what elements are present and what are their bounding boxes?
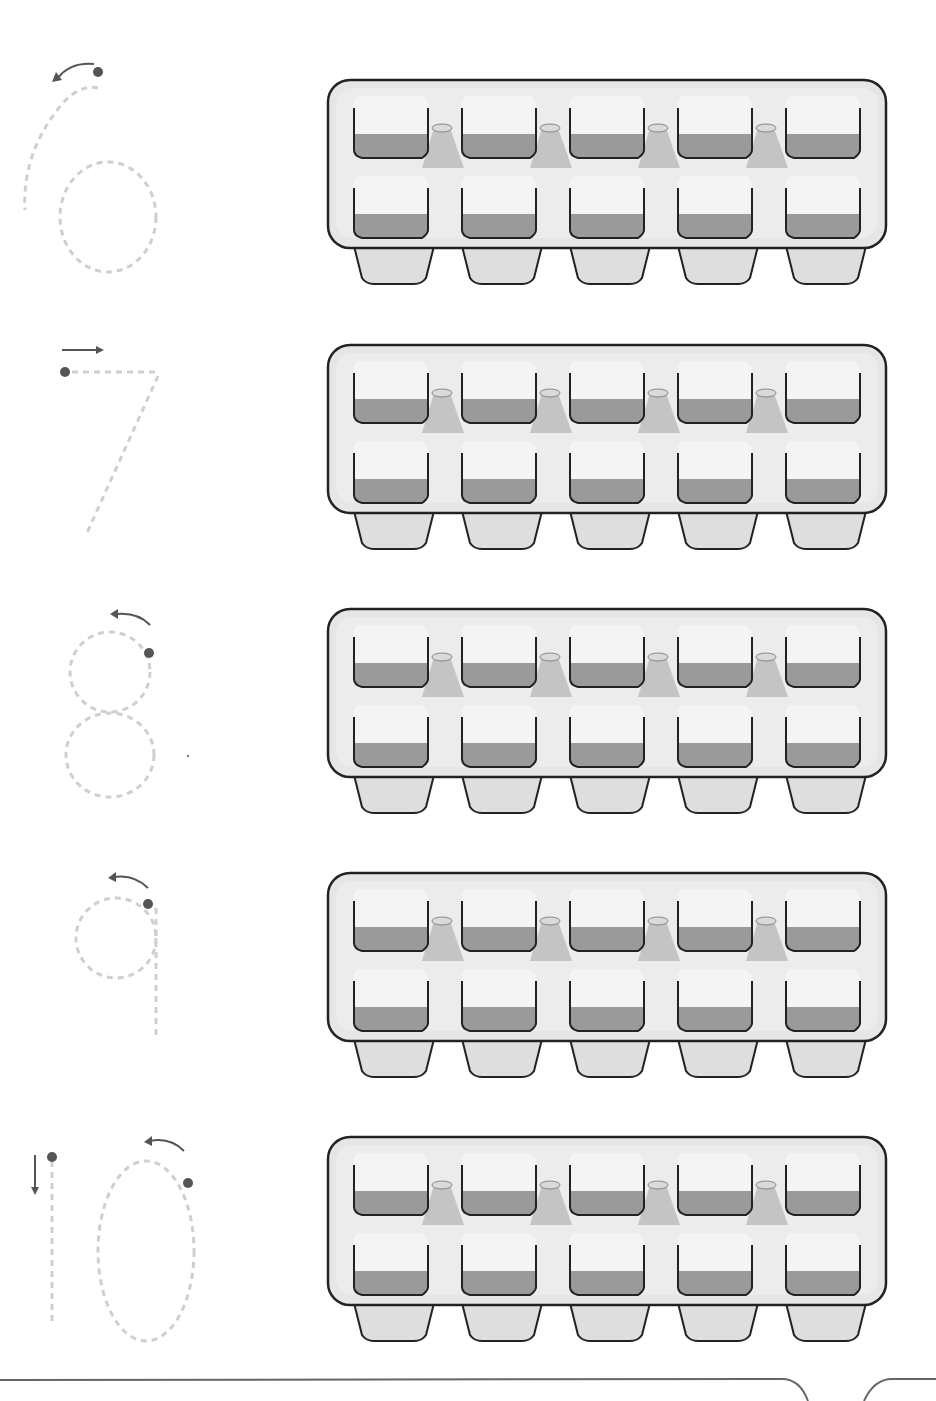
direction-arrow-icon <box>114 876 148 888</box>
direction-arrow-icon <box>116 614 150 625</box>
ice-cube-tray-9 <box>326 871 888 1087</box>
start-dot-icon <box>47 1152 57 1162</box>
start-dot-icon <box>93 67 103 77</box>
start-dot-icon <box>183 1178 193 1188</box>
start-dot-icon <box>143 899 153 909</box>
ice-cube-tray-7 <box>326 343 888 559</box>
direction-arrow-icon <box>58 64 94 78</box>
ice-cube-tray-6 <box>326 78 888 294</box>
ice-cube-tray-8 <box>326 607 888 823</box>
page-footer-border <box>0 1365 936 1401</box>
trace-numeral-6 <box>0 60 230 300</box>
ice-cube-tray-10 <box>326 1135 888 1351</box>
trace-numeral-10 <box>0 1125 230 1365</box>
trace-numeral-7 <box>0 330 230 570</box>
start-dot-icon <box>144 648 154 658</box>
trace-numeral-9 <box>0 866 230 1106</box>
start-dot-icon <box>60 367 70 377</box>
trace-numeral-8 <box>0 600 230 840</box>
direction-arrow-icon <box>150 1140 184 1151</box>
